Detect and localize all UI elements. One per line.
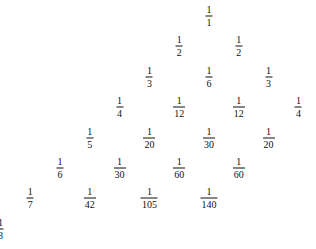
numerator: 1 [146,65,153,75]
denominator: 2 [176,48,183,58]
denominator: 60 [233,170,245,180]
fraction-cell: 18 [0,217,4,240]
numerator: 1 [146,187,153,197]
numerator: 1 [295,96,302,106]
denominator: 3 [265,78,272,88]
fraction-cell: 120 [143,126,155,149]
denominator: 4 [116,109,123,119]
fraction-cell: 14 [295,96,302,119]
numerator: 1 [206,65,213,75]
fraction-cell: 13 [146,65,153,88]
numerator: 1 [265,65,272,75]
fraction-cell: 112 [233,96,245,119]
numerator: 1 [146,126,153,136]
numerator: 1 [235,157,242,167]
numerator: 1 [116,96,123,106]
fraction-cell: 11 [206,5,213,28]
denominator: 2 [235,48,242,58]
numerator: 1 [27,187,34,197]
denominator: 105 [141,200,158,210]
numerator: 1 [176,96,183,106]
denominator: 12 [173,109,185,119]
denominator: 20 [143,139,155,149]
numerator: 1 [206,187,213,197]
numerator: 1 [235,96,242,106]
numerator: 1 [235,35,242,45]
numerator: 1 [86,187,93,197]
denominator: 1 [206,18,213,28]
denominator: 8 [0,230,4,240]
fraction-cell: 130 [203,126,215,149]
numerator: 1 [265,126,272,136]
denominator: 6 [57,170,64,180]
denominator: 30 [203,139,215,149]
denominator: 60 [173,170,185,180]
fraction-cell: 1105 [141,187,158,210]
denominator: 140 [201,200,218,210]
denominator: 4 [295,109,302,119]
denominator: 3 [146,78,153,88]
denominator: 20 [263,139,275,149]
fraction-cell: 160 [233,157,245,180]
numerator: 1 [0,217,4,227]
fraction-cell: 130 [114,157,126,180]
fraction-cell: 16 [57,157,64,180]
fraction-cell: 16 [206,65,213,88]
numerator: 1 [176,35,183,45]
fraction-cell: 12 [235,35,242,58]
fraction-cell: 12 [176,35,183,58]
denominator: 12 [233,109,245,119]
fraction-cell: 14 [116,96,123,119]
numerator: 1 [116,157,123,167]
fraction-cell: 112 [173,96,185,119]
fraction-cell: 13 [265,65,272,88]
fraction-cell: 17 [27,187,34,210]
denominator: 5 [86,139,93,149]
numerator: 1 [57,157,64,167]
numerator: 1 [86,126,93,136]
denominator: 30 [114,170,126,180]
fraction-cell: 142 [84,187,96,210]
numerator: 1 [206,5,213,15]
fraction-cell: 160 [173,157,185,180]
numerator: 1 [206,126,213,136]
fraction-cell: 15 [86,126,93,149]
denominator: 6 [206,78,213,88]
fraction-cell: 120 [263,126,275,149]
denominator: 7 [27,200,34,210]
numerator: 1 [176,157,183,167]
fraction-cell: 1140 [201,187,218,210]
denominator: 42 [84,200,96,210]
